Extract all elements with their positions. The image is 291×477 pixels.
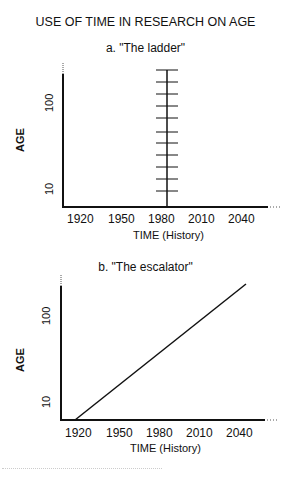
faint-caption bbox=[2, 468, 162, 472]
panel-b-ylabel: AGE bbox=[14, 348, 26, 372]
panel-b-xtick: 2010 bbox=[186, 426, 213, 440]
panel-b-ytick-100: 100 bbox=[40, 307, 52, 325]
panel-a-xtick: 2040 bbox=[228, 212, 255, 226]
panel-b-xtick: 1980 bbox=[146, 426, 173, 440]
panel-b-xtick: 1920 bbox=[65, 426, 92, 440]
panel-a-ytick-100: 100 bbox=[43, 94, 55, 112]
panel-a-xtick: 1950 bbox=[108, 212, 135, 226]
panel-b-xlabel: TIME (History) bbox=[130, 442, 201, 454]
panel-a-xtick: 1980 bbox=[148, 212, 175, 226]
panel-a-xlabel: TIME (History) bbox=[133, 229, 204, 241]
panel-a-xtick: 1920 bbox=[67, 212, 94, 226]
panel-b-xtick: 1950 bbox=[106, 426, 133, 440]
panel-a-ylabel: AGE bbox=[14, 128, 26, 152]
panel-a-xtick: 2010 bbox=[188, 212, 215, 226]
panel-b-xtick: 2040 bbox=[226, 426, 253, 440]
panel-b-ytick-10: 10 bbox=[40, 396, 52, 408]
panel-a-ytick-10: 10 bbox=[43, 183, 55, 195]
panel-b-title: b. "The escalator" bbox=[0, 260, 291, 274]
